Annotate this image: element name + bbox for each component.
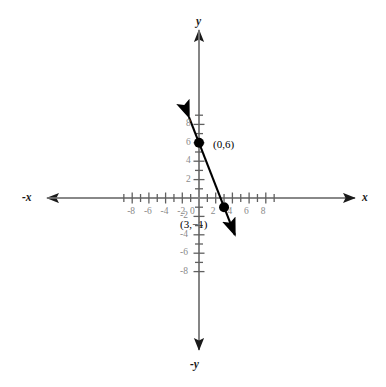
y-tick-label: -8 <box>180 267 188 277</box>
x-tick-label: 0 <box>190 207 195 217</box>
axis-label-negative-y: -y <box>190 359 199 371</box>
data-point-label: (3,−1) <box>180 219 207 230</box>
x-tick-label: 8 <box>261 207 266 217</box>
axis-label-positive-y: y <box>196 16 201 28</box>
x-tick-label: 4 <box>227 207 232 217</box>
y-tick-label: -4 <box>180 230 188 240</box>
y-tick-label: 4 <box>186 156 191 166</box>
y-tick-label: 8 <box>186 119 191 129</box>
coordinate-plane-figure: -8-6-4-2024688642-2-4-6-8 -x x y -y (0,6… <box>0 0 386 387</box>
axis-label-negative-x: -x <box>22 192 32 204</box>
data-point-label: (0,6) <box>213 139 234 150</box>
x-tick-label: -6 <box>144 207 152 217</box>
x-tick-label: 6 <box>244 207 249 217</box>
y-tick-label: 6 <box>186 138 191 148</box>
x-tick-label: -4 <box>161 207 169 217</box>
x-tick-label: 2 <box>211 207 216 217</box>
y-tick-label: 2 <box>186 175 191 185</box>
axis-label-positive-x: x <box>362 192 368 204</box>
data-point <box>194 138 204 148</box>
graph-canvas <box>0 0 386 387</box>
y-tick-label: -6 <box>180 248 188 258</box>
linear-function-line <box>189 117 235 235</box>
x-tick-label: -8 <box>127 207 135 217</box>
